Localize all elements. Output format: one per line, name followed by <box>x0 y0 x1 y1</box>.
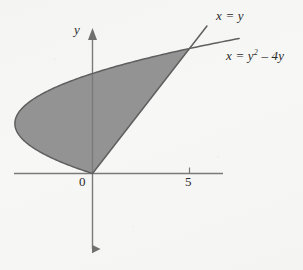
annotation-parabola-equation: x = y2 – 4y <box>226 48 284 64</box>
annotation-parabola-suffix: – 4y <box>258 48 284 63</box>
shaded-region <box>15 49 190 174</box>
origin-label: 0 <box>79 174 86 190</box>
plot-canvas <box>0 0 303 270</box>
figure-container: y 0 5 x = y x = y2 – 4y <box>0 0 303 270</box>
y-axis-label: y <box>74 22 80 38</box>
x-tick-label-5: 5 <box>185 174 192 190</box>
y-axis-arrow-up-icon <box>88 28 97 40</box>
annotation-line-equation: x = y <box>216 8 244 24</box>
annotation-parabola-prefix: x = y <box>226 48 254 63</box>
